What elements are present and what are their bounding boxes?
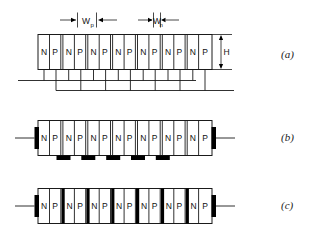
cell-label: P [77,201,83,211]
cell-label: P [52,133,58,143]
dimension-marker-h: H [212,35,232,70]
bottom-contact-pad [81,156,95,161]
cell-label: P [102,47,108,57]
diagram-svg: W p W n [0,0,327,233]
barrier-electrode [186,189,189,224]
cell-label: N [41,47,47,57]
figure-container: W p W n [0,0,327,233]
cell-label: P [176,133,182,143]
cell-label: P [52,47,58,57]
panel-c: N P N P N P N P N P N P N P (c) [15,189,294,224]
panel-a-body [38,35,212,70]
cell-label: N [115,47,121,57]
cell-label: P [202,133,208,143]
cell-label: N [140,47,146,57]
cell-label: P [202,201,208,211]
barrier-electrode [86,189,89,224]
dimension-marker-wn: W n [138,13,179,29]
cell-label: N [115,133,121,143]
barrier-electrode [136,189,139,224]
panel-label-b: (b) [281,131,294,144]
panel-a-bus-wiring [18,70,234,91]
cell-label: P [127,201,133,211]
dimension-subscript-wn: n [160,22,163,28]
barrier-electrode [161,189,164,224]
cell-label: P [176,47,182,57]
cell-label: N [66,201,72,211]
right-contact-pad [212,127,217,149]
cell-label: P [102,133,108,143]
dimension-marker-wp: W p [60,13,117,28]
panel-b: N P N P N P N P N P N P N P [15,121,294,161]
cell-label: N [90,133,96,143]
cell-label: N [90,47,96,57]
cell-label: N [140,133,146,143]
bottom-contact-pad [131,156,145,161]
bottom-contact-pad [57,156,71,161]
cell-label: N [41,201,47,211]
cell-label: N [165,47,171,57]
cell-label: P [52,201,58,211]
cell-label: P [152,47,158,57]
barrier-electrode [111,189,114,224]
panel-b-body [38,121,212,156]
cell-label: N [66,47,72,57]
cell-label: N [165,133,171,143]
dimension-label-h: H [223,47,229,57]
cell-label: P [102,201,108,211]
cell-label: P [127,47,133,57]
panel-a: W p W n [18,13,294,91]
cell-label: P [176,201,182,211]
right-contact-pad [212,195,217,217]
cell-label: N [190,133,196,143]
cell-label: N [190,47,196,57]
cell-label: N [41,133,47,143]
panel-b-bottom-pads [57,156,170,161]
cell-label: P [127,133,133,143]
cell-label: P [77,133,83,143]
panel-label-a: (a) [281,48,294,61]
cell-label: P [152,133,158,143]
dimension-label-wp: W [82,16,90,26]
left-contact-pad [35,127,40,149]
barrier-electrode [62,189,65,224]
bottom-contact-pad [156,156,170,161]
cell-label: P [77,47,83,57]
cell-label: N [166,201,172,211]
cell-label: P [202,47,208,57]
bottom-contact-pad [106,156,120,161]
cell-label: N [141,201,147,211]
cell-label: N [191,201,197,211]
cell-label: P [152,201,158,211]
panel-label-c: (c) [281,199,294,212]
cell-label: N [116,201,122,211]
left-contact-pad [35,195,40,217]
cell-label: N [91,201,97,211]
cell-label: N [66,133,72,143]
dimension-subscript-wp: p [91,22,95,28]
